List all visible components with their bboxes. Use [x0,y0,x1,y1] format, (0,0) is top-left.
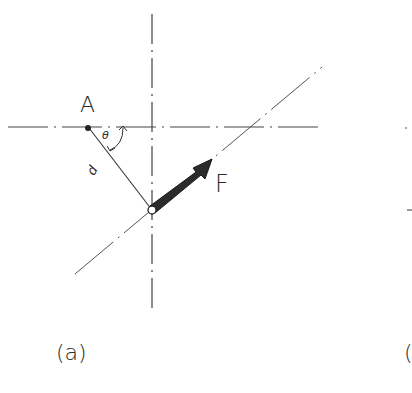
panel-a-caption: (a) [56,340,87,365]
panel-b-caption-partial: ( [404,340,412,365]
force-arrow-icon [150,159,212,213]
origin-marker [148,206,156,214]
angle-arc-theta [110,128,123,150]
panel-b-dot [405,127,407,129]
point-a-label: A [80,92,95,117]
diagram-canvas [0,0,412,393]
angle-arrowhead-bottom [107,146,115,151]
angle-theta-label: θ [102,129,109,142]
force-f-label: F [215,170,229,198]
point-a-marker [85,125,91,131]
